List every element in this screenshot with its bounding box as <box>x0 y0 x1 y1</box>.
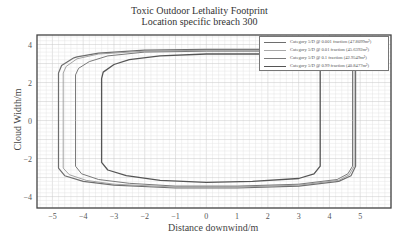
x-tick-label: 3 <box>297 212 301 221</box>
legend-swatch <box>264 58 286 59</box>
x-tick-label: −4 <box>79 212 88 221</box>
y-tick-label: −4 <box>23 193 32 202</box>
x-tick-label: −5 <box>48 212 57 221</box>
legend-swatch <box>264 50 286 51</box>
x-tick-label: 1 <box>235 212 239 221</box>
legend-item: Category 5/D @ 0.01 fraction (45.6392m²) <box>264 46 388 54</box>
legend: Category 5/D @ 0.001 fraction (47.8099m²… <box>259 36 389 71</box>
y-tick-label: −2 <box>23 155 32 164</box>
y-tick-label: 4 <box>28 41 32 50</box>
legend-swatch <box>264 66 286 67</box>
x-tick-label: 0 <box>204 212 208 221</box>
legend-swatch <box>264 42 286 43</box>
x-tick-label: −2 <box>140 212 149 221</box>
y-tick-label: 0 <box>28 117 32 126</box>
x-axis-label: Distance downwind/m <box>168 222 258 233</box>
legend-label: Category 5/D @ 0.99 fraction (40.8477m²) <box>290 62 369 70</box>
legend-label: Category 5/D @ 0.001 fraction (47.8099m²… <box>290 38 371 46</box>
x-tick-label: 4 <box>327 212 331 221</box>
y-tick-label: 2 <box>28 79 32 88</box>
series-line <box>102 54 321 182</box>
legend-item: Category 5/D @ 0.99 fraction (40.8477m²) <box>264 62 388 70</box>
x-tick-label: −3 <box>110 212 119 221</box>
y-axis-label: Cloud Width/m <box>12 85 23 155</box>
x-tick-label: 2 <box>266 212 270 221</box>
legend-label: Category 5/D @ 0.01 fraction (45.6392m²) <box>290 46 369 54</box>
legend-item: Category 5/D @ 0.001 fraction (47.8099m²… <box>264 38 388 46</box>
x-tick-label: −1 <box>171 212 180 221</box>
x-tick-label: 5 <box>358 212 362 221</box>
legend-label: Category 5/D @ 0.1 fraction (42.9549m²) <box>290 54 367 62</box>
legend-item: Category 5/D @ 0.1 fraction (42.9549m²) <box>264 54 388 62</box>
